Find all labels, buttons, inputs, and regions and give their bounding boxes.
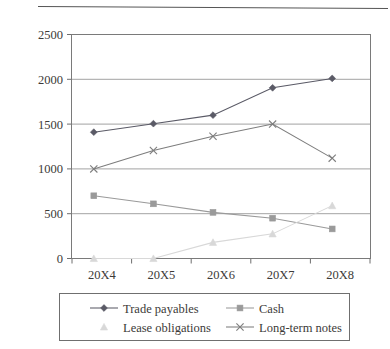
- legend-label: Lease obligations: [123, 321, 211, 335]
- legend-label: Trade payables: [123, 302, 199, 316]
- x-tick-label: 20X7: [267, 268, 295, 282]
- top-rule: [38, 7, 388, 9]
- legend-label: Cash: [259, 302, 285, 316]
- marker-diamond: [90, 129, 97, 136]
- marker-square: [210, 209, 216, 215]
- marker-square: [329, 226, 335, 232]
- marker-square: [270, 215, 276, 221]
- y-tick-label: 2500: [38, 28, 63, 42]
- marker-diamond: [210, 112, 217, 119]
- gridlines: [72, 35, 370, 259]
- marker-diamond: [269, 84, 276, 91]
- marker-diamond: [150, 120, 157, 127]
- marker-diamond: [329, 75, 336, 82]
- series-cash: [91, 193, 335, 232]
- data-series-layer: [90, 75, 336, 262]
- marker-square: [237, 305, 243, 311]
- marker-square: [91, 193, 97, 199]
- series-long-term-notes: [90, 121, 336, 173]
- marker-triangle: [329, 202, 336, 209]
- x-tick-label: 20X5: [148, 268, 176, 282]
- legend-label: Long-term notes: [259, 321, 342, 335]
- marker-square: [151, 201, 157, 207]
- y-axis-tick-labels: 05001000150020002500: [38, 28, 63, 266]
- chart-figure: 05001000150020002500 20X420X520X620X720X…: [0, 0, 390, 349]
- y-tick-label: 1500: [38, 118, 63, 132]
- x-axis-tick-labels: 20X420X520X620X720X8: [88, 268, 354, 282]
- y-tick-label: 2000: [38, 73, 63, 87]
- line-chart: 05001000150020002500 20X420X520X620X720X…: [0, 0, 390, 349]
- series-trade-payables: [90, 75, 335, 136]
- marker-x: [329, 155, 336, 162]
- x-tick-label: 20X8: [326, 268, 354, 282]
- marker-x: [150, 147, 157, 154]
- y-tick-label: 500: [44, 207, 63, 221]
- y-tick-label: 1000: [38, 162, 63, 176]
- y-tick-label: 0: [57, 252, 63, 266]
- x-tick-marks: [72, 259, 370, 264]
- x-tick-label: 20X4: [88, 268, 117, 282]
- plot-area-border: [72, 35, 371, 259]
- marker-triangle: [269, 230, 276, 237]
- x-tick-label: 20X6: [207, 268, 235, 282]
